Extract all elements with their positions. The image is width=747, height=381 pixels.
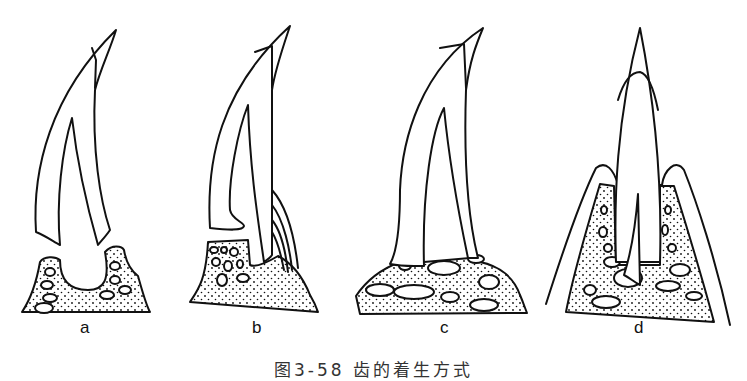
tooth-a bbox=[35, 30, 116, 245]
panel-b-drawing bbox=[190, 26, 318, 312]
panel-label-b: b bbox=[252, 318, 261, 338]
tooth-c bbox=[390, 28, 483, 266]
figure-caption: 图3-58 齿的着生方式 bbox=[0, 356, 747, 381]
tooth-b bbox=[209, 26, 290, 262]
panel-d-drawing bbox=[546, 28, 730, 325]
panel-c-drawing bbox=[356, 28, 527, 314]
panel-label-c: c bbox=[440, 318, 449, 338]
bone-a bbox=[22, 247, 150, 313]
panel-label-d: d bbox=[634, 318, 643, 338]
panel-a-drawing bbox=[22, 30, 150, 313]
panel-label-a: a bbox=[80, 318, 89, 338]
